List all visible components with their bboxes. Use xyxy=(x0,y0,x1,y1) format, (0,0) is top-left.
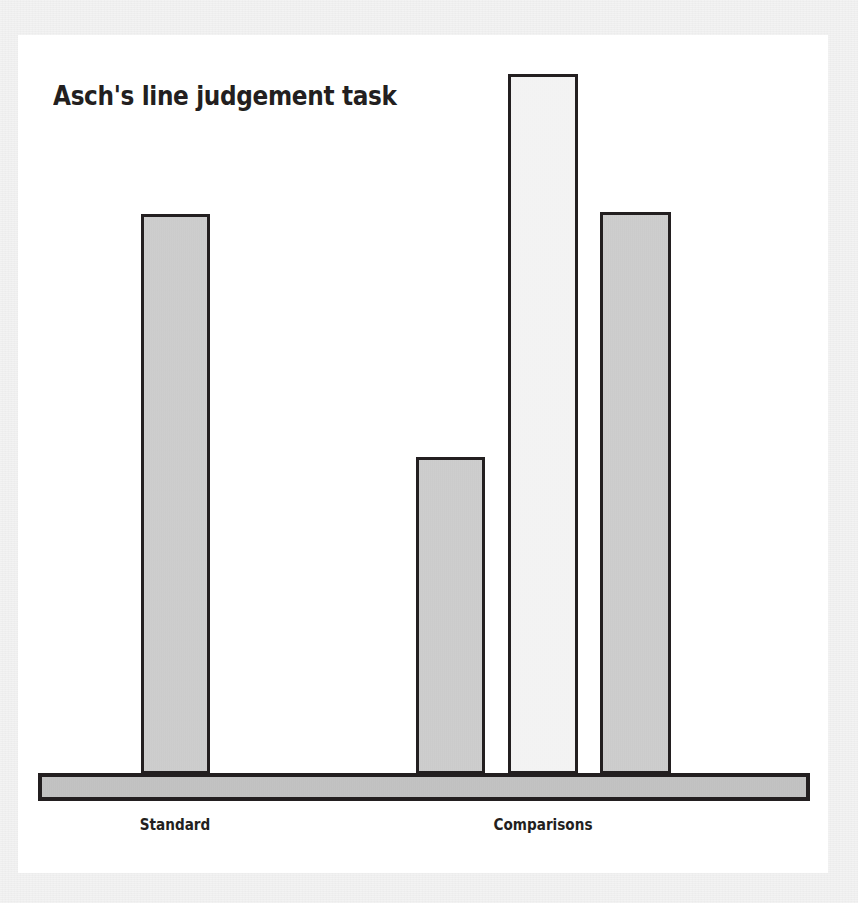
figure-root: Asch's line judgement task Standard Comp… xyxy=(0,0,858,903)
axis-label-comparisons: Comparisons xyxy=(494,815,593,834)
axis-label-standard: Standard xyxy=(140,815,211,834)
bar-comparison-2 xyxy=(508,74,578,774)
plot-area: Standard Comparisons xyxy=(18,35,828,873)
bar-comparison-1 xyxy=(416,457,485,774)
bar-standard-line xyxy=(141,214,210,774)
baseline-bar xyxy=(38,773,810,801)
plot-card: Asch's line judgement task Standard Comp… xyxy=(18,35,828,873)
bar-comparison-3 xyxy=(600,212,671,774)
